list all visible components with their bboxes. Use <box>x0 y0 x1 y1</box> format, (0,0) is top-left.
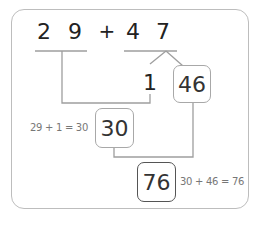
digit-first-ones: 9 <box>65 21 85 43</box>
split-branch-right <box>166 51 183 66</box>
connector-29-to-1 <box>62 51 150 103</box>
final-result-value: 76 <box>143 170 171 195</box>
split-part-large-value: 46 <box>178 72 206 97</box>
split-branch-left <box>150 51 166 64</box>
plus-operator: + <box>97 20 117 42</box>
digit-first-tens: 2 <box>34 21 54 43</box>
step1-equation: 29 + 1 = 30 <box>30 122 88 133</box>
final-result-box: 76 <box>137 162 176 202</box>
digit-second-ones: 7 <box>153 21 173 43</box>
split-part-large-box: 46 <box>173 65 211 103</box>
step2-equation: 30 + 46 = 76 <box>180 176 244 187</box>
step1-result-value: 30 <box>101 116 129 141</box>
digit-second-tens: 4 <box>123 21 143 43</box>
step1-result-box: 30 <box>95 108 134 148</box>
split-part-small: 1 <box>140 72 160 94</box>
